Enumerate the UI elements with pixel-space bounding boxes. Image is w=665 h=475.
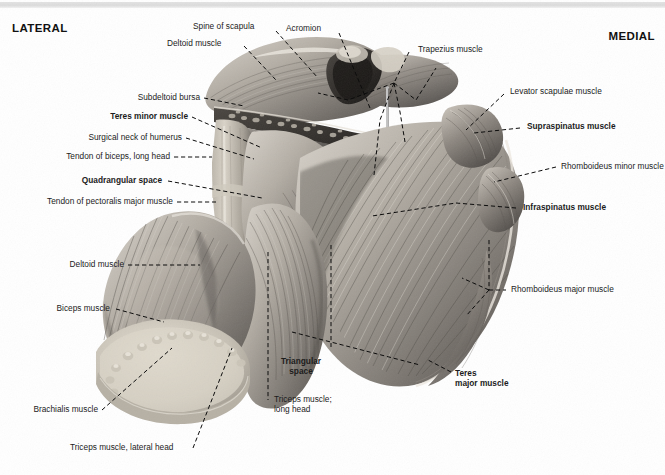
label-rhomboideus-minor-muscle: Rhomboideus minor muscle: [561, 162, 664, 172]
label-tendon-of-pectoralis-major: Tendon of pectoralis major muscle: [8, 197, 173, 207]
label-quadrangular-space: Quadrangular space: [22, 176, 162, 186]
leader-trapezius-b: [394, 68, 436, 100]
label-triangular-space-line2: space: [277, 367, 325, 377]
leader-deltoid-top: [244, 46, 276, 80]
leader-acromion: [339, 33, 370, 108]
orientation-lateral: LATERAL: [12, 22, 68, 34]
label-spine-of-scapula: Spine of scapula: [193, 22, 254, 32]
leader-levator-scapulae: [466, 94, 504, 130]
leader-biceps: [116, 309, 164, 322]
leader-trapezius-c: [394, 83, 405, 142]
leader-supraspinatus: [474, 128, 520, 133]
label-teres-minor-muscle: Teres minor muscle: [48, 112, 188, 122]
leader-spine-of-scapula: [276, 31, 318, 78]
leader-quadrangular-space: [168, 181, 262, 198]
leader-trapezius-a: [318, 83, 394, 100]
leader-triceps-lateral: [193, 348, 232, 448]
label-triceps-long-head-line2: long head: [274, 405, 310, 415]
leader-rhomb-major-b: [466, 290, 489, 316]
leader-trapezius-stem: [394, 52, 409, 83]
label-deltoid-muscle-lower: Deltoid muscle: [30, 260, 124, 270]
label-levator-scapulae-muscle: Levator scapulae muscle: [510, 87, 602, 97]
label-trapezius-muscle: Trapezius muscle: [418, 45, 483, 55]
label-teres-major-line2: major muscle: [455, 379, 509, 389]
label-subdeltoid-bursa: Subdeltoid bursa: [70, 93, 200, 103]
label-tendon-of-biceps-long-head: Tendon of biceps, long head: [20, 152, 170, 162]
leader-rhomb-major-a: [462, 278, 489, 290]
leader-teres-major: [428, 360, 451, 372]
label-surgical-neck-of-humerus: Surgical neck of humerus: [42, 133, 182, 143]
orientation-medial: MEDIAL: [609, 30, 655, 42]
label-triceps-muscle-lateral-head: Triceps muscle, lateral head: [70, 443, 173, 453]
leader-brachialis: [102, 348, 172, 410]
leader-rhomboideus-minor: [494, 167, 556, 182]
leader-infraspinatus: [372, 203, 516, 216]
label-infraspinatus-muscle: Infraspinatus muscle: [523, 203, 606, 213]
label-deltoid-muscle-top: Deltoid muscle: [167, 39, 221, 49]
leader-surgical-neck: [186, 138, 254, 159]
leader-lines: [0, 0, 665, 475]
leader-trapezius-d: [374, 83, 394, 175]
label-rhomboideus-major-muscle: Rhomboideus major muscle: [511, 285, 614, 295]
label-brachialis-muscle: Brachialis muscle: [10, 405, 98, 415]
label-biceps-muscle: Biceps muscle: [24, 304, 110, 314]
figure-canvas: LATERAL MEDIAL Spine of scapula Acromion…: [0, 0, 665, 475]
leader-subdeltoid-bursa: [204, 98, 244, 106]
label-acromion: Acromion: [286, 24, 321, 34]
label-supraspinatus-muscle: Supraspinatus muscle: [527, 122, 616, 132]
